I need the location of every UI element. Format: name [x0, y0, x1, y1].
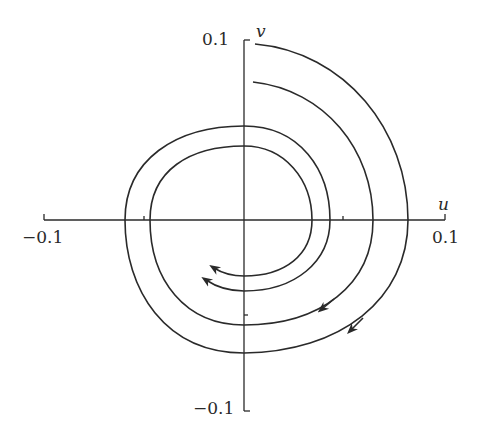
inner-trajectory — [150, 82, 373, 325]
v-axis-label: v — [256, 21, 266, 41]
u-axis-label: u — [438, 194, 449, 214]
u-max-label: 0.1 — [432, 227, 459, 247]
outer-trajectory — [125, 44, 408, 353]
trajectories: 0.1 v u −0.1 0.1 −0.1 — [0, 0, 477, 439]
v-min-label: −0.1 — [193, 398, 234, 418]
u-min-label: −0.1 — [22, 227, 63, 247]
v-max-label: 0.1 — [202, 29, 229, 49]
